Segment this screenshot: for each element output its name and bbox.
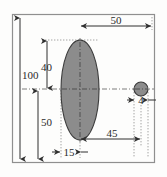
dim-label-overall-width: 50: [111, 14, 123, 26]
dim-label-lower-height: 50: [41, 116, 53, 128]
dim-label-circle-width: 4: [138, 94, 144, 106]
drawing-canvas: 100 40 50 50 45 15 4: [0, 0, 167, 177]
dim-label-overall-height: 100: [22, 69, 39, 81]
dim-label-upper-height: 40: [41, 61, 53, 73]
dim-label-left-offset: 15: [64, 146, 76, 158]
dim-label-center-offset: 45: [107, 127, 119, 139]
dimension-drawing-figure: 100 40 50 50 45 15 4: [0, 0, 167, 177]
